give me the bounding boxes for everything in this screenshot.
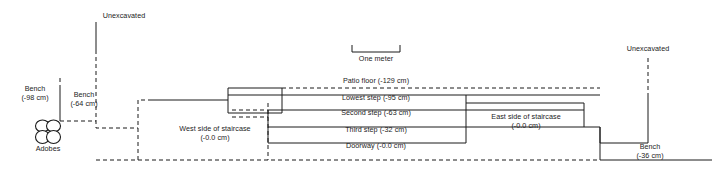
bench-left-inner-depth: (-64 cm)	[62, 99, 106, 108]
unexcavated-left-label: Unexcavated	[103, 11, 146, 20]
west-side-depth: (-0.0 cm)	[163, 133, 267, 142]
east-side-name: East side of staircase	[472, 112, 580, 121]
bench-left-inner-label: Bench (-64 cm)	[62, 90, 106, 108]
bench-inner-floor-dashed	[60, 121, 138, 128]
bench-left-outer-label: Bench (-98 cm)	[12, 84, 58, 102]
patio-floor-block	[228, 88, 282, 113]
adobes-label: Adobes	[36, 144, 61, 153]
bench-left-outer-name: Bench	[12, 84, 58, 93]
lowest-step-label: Lowest step (-95 cm)	[342, 93, 410, 102]
east-side-depth: (-0.0 cm)	[472, 121, 580, 130]
west-side-of-staircase-label: West side of staircase (-0.0 cm)	[163, 124, 267, 142]
west-staircase-riser-dashed	[138, 100, 152, 160]
adobe-brick-bottom-right	[47, 131, 61, 144]
bench-left-inner-name: Bench	[62, 90, 106, 99]
scale-bar-label: One meter	[359, 54, 393, 63]
bench-right-riser	[584, 127, 600, 160]
archaeological-plan-figure: Unexcavated Unexcavated One meter Bench …	[0, 0, 717, 173]
bench-right-name: Bench	[628, 142, 672, 151]
unexcavated-right-label: Unexcavated	[627, 44, 670, 53]
patio-floor-label: Patio floor (-129 cm)	[343, 76, 409, 85]
bench-left-outer-depth: (-98 cm)	[12, 93, 58, 102]
east-side-of-staircase-label: East side of staircase (-0.0 cm)	[472, 112, 580, 130]
third-step-label: Third step (-32 cm)	[345, 125, 407, 134]
doorway-label: Doorway (-0.0 cm)	[346, 141, 406, 150]
second-step-label: Second step (-63 cm)	[341, 108, 411, 117]
bench-right-label: Bench (-36 cm)	[628, 142, 672, 160]
west-side-name: West side of staircase	[163, 124, 267, 133]
bench-right-depth: (-36 cm)	[628, 151, 672, 160]
